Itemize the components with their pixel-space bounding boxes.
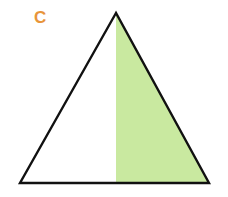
- triangle-diagram: [0, 0, 228, 197]
